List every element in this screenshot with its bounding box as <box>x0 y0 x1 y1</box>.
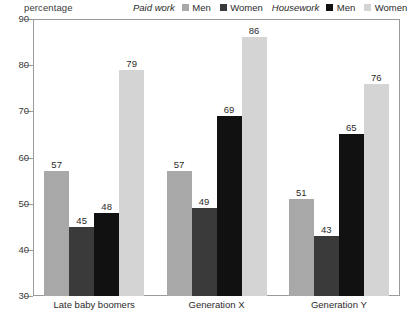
legend-group-title-housework: Housework <box>272 2 320 13</box>
legend-group-title-paid-work: Paid work <box>133 2 175 13</box>
legend-label-paid-work-women: Women <box>230 2 263 13</box>
bar[interactable] <box>192 208 217 296</box>
bars-layer: 574548795749698651436576 <box>33 19 400 296</box>
legend-swatch-icon-housework-women <box>364 4 371 11</box>
legend-group-housework: Housework Men Women <box>272 2 414 13</box>
bar-group: 51436576 <box>289 19 389 296</box>
bar[interactable] <box>314 236 339 296</box>
bar[interactable] <box>44 171 69 296</box>
bar-value-label: 76 <box>359 72 393 83</box>
bar-value-label: 86 <box>237 25 271 36</box>
bar-group: 57496986 <box>167 19 267 296</box>
bar-chart: percentage Paid work Men Women Housework… <box>0 0 414 322</box>
y-axis-tick-label: 80 <box>0 59 29 70</box>
bar[interactable] <box>69 227 94 296</box>
legend-item-housework-women[interactable]: Women <box>364 2 407 13</box>
y-axis-tick-label: 90 <box>0 13 29 24</box>
y-axis-tick-label: 60 <box>0 152 29 163</box>
x-axis-category-label: Generation Y <box>259 299 414 310</box>
bar[interactable] <box>242 37 267 296</box>
bar[interactable] <box>94 213 119 296</box>
legend-label-paid-work-men: Men <box>192 2 210 13</box>
legend-swatch-icon-paid-work-men <box>182 4 189 11</box>
bar[interactable] <box>339 134 364 296</box>
bar-value-label: 79 <box>115 58 149 69</box>
bar-value-label: 57 <box>40 159 74 170</box>
bar[interactable] <box>119 70 144 296</box>
y-axis-tick-label: 70 <box>0 105 29 116</box>
legend-item-housework-men[interactable]: Men <box>326 2 355 13</box>
bar[interactable] <box>217 116 242 296</box>
legend-group-paid-work: Paid work Men Women <box>133 2 272 13</box>
legend-label-housework-women: Women <box>375 2 408 13</box>
y-axis-tick-label: 50 <box>0 198 29 209</box>
bar[interactable] <box>289 199 314 296</box>
bar[interactable] <box>167 171 192 296</box>
y-axis-tick-label: 40 <box>0 244 29 255</box>
legend-label-housework-men: Men <box>337 2 355 13</box>
bar-value-label: 57 <box>162 159 196 170</box>
bar[interactable] <box>364 84 389 296</box>
bar-group: 57454879 <box>44 19 144 296</box>
y-axis-title: percentage <box>24 2 73 13</box>
chart-legend: Paid work Men Women Housework Men Women <box>133 2 410 13</box>
legend-item-paid-work-women[interactable]: Women <box>220 2 263 13</box>
bar-value-label: 51 <box>284 187 318 198</box>
legend-swatch-icon-housework-men <box>326 4 333 11</box>
legend-item-paid-work-men[interactable]: Men <box>182 2 211 13</box>
legend-swatch-icon-paid-work-women <box>220 4 227 11</box>
